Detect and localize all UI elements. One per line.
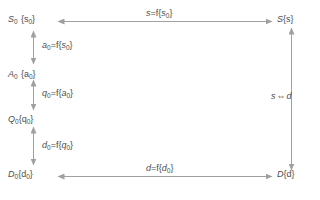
node-a0-subscript: 0: [14, 73, 18, 80]
edge-label-right-rhs: d: [287, 91, 292, 101]
edge-label-s0-a0: a0=f{s0}: [42, 40, 73, 53]
node-q0: Q0{q0}: [8, 114, 33, 127]
edge-label-bottom-op: =f{: [151, 163, 162, 173]
node-a0-set-open: {a: [21, 69, 29, 79]
edge-label-a0-q0-op: =f{: [51, 88, 62, 98]
edge-label-q0-d0-op: =f{: [51, 140, 62, 150]
edge-label-a0-q0: q0=f{a0}: [42, 88, 73, 101]
node-q0-set-close: }: [30, 114, 33, 124]
node-d0: D0{d0}: [8, 169, 33, 182]
edge-label-top: s=f{s0}: [146, 8, 172, 21]
node-q0-set-open: {q: [19, 114, 27, 124]
edge-label-right: s⇔d: [271, 91, 292, 102]
edge-label-bottom: d=f{d0}: [146, 163, 173, 176]
edge-label-a0-q0-close: }: [70, 88, 73, 98]
node-s0-set-close: }: [32, 14, 35, 24]
edge-label-q0-d0-close: }: [70, 140, 73, 150]
node-a0-set-close: }: [33, 69, 36, 79]
node-d0-set-close: }: [30, 169, 33, 179]
edge-label-s0-a0-op: =f{: [51, 40, 62, 50]
node-s0-subscript: 0: [14, 18, 18, 25]
node-s0: S0 {s0}: [8, 14, 35, 27]
node-s: S{s}: [277, 14, 294, 25]
left-right-double-arrow-icon: ⇔: [276, 91, 287, 101]
edge-label-s0-a0-close: }: [70, 40, 73, 50]
node-s-set-close: }: [291, 14, 294, 24]
edge-label-q0-d0: d0=f{q0}: [42, 140, 73, 153]
node-d0-set-open: {d: [18, 169, 26, 179]
diagram-canvas: S0 {s0} A0 {a0} Q0{q0} D0{d0} S{s} D{d} …: [0, 0, 320, 200]
node-s-set-open: {s: [283, 14, 291, 24]
node-d-set-close: }: [292, 169, 295, 179]
edge-label-bottom-close: }: [170, 163, 173, 173]
edge-label-top-op: =f{: [151, 8, 162, 18]
node-d: D{d}: [277, 169, 295, 180]
node-d-set-open: {d: [284, 169, 292, 179]
node-a0: A0 {a0}: [8, 69, 36, 82]
node-q0-base: Q: [8, 114, 15, 124]
edge-label-top-close: }: [169, 8, 172, 18]
edge-label-right-lhs: s: [271, 91, 276, 101]
